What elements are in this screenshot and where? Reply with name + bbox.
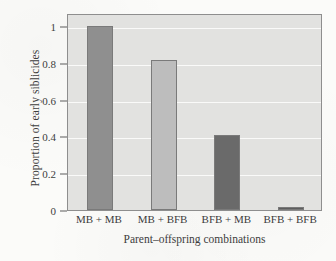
y-axis-tick-label: 0.8 <box>26 58 56 70</box>
y-axis-tick-label: 0.6 <box>26 95 56 107</box>
y-axis-tick-labels: 00.20.40.60.81 <box>26 0 56 261</box>
y-axis-tick-label: 0.4 <box>26 131 56 143</box>
x-axis-tick-label: MB + MB <box>76 213 122 225</box>
x-axis-tick-label: BFB + BFB <box>263 213 316 225</box>
x-axis-tick-labels: MB + MBMB + BFBBFB + MBBFB + BFB <box>67 213 322 231</box>
y-axis-tick-mark <box>60 211 67 212</box>
bar-chart-figure: Proportion of early siblicides 00.20.40.… <box>0 0 336 261</box>
x-axis-tick-label: MB + BFB <box>138 213 188 225</box>
bar <box>214 135 240 210</box>
y-axis-tick-mark <box>60 174 67 175</box>
y-axis-tick-mark <box>60 137 67 138</box>
y-axis-tick-label: 1 <box>26 21 56 33</box>
x-axis-title: Parent–offspring combinations <box>67 233 322 245</box>
bar <box>87 26 113 210</box>
y-axis-tick-label: 0.2 <box>26 168 56 180</box>
y-axis-tick-mark <box>60 100 67 101</box>
bar <box>278 207 304 210</box>
y-axis-tick-mark <box>60 26 67 27</box>
plot-area <box>67 14 322 211</box>
bar <box>151 60 177 210</box>
y-axis-tick-mark <box>60 63 67 64</box>
x-axis-tick-label: BFB + MB <box>202 213 252 225</box>
y-axis-tick-label: 0 <box>26 205 56 217</box>
